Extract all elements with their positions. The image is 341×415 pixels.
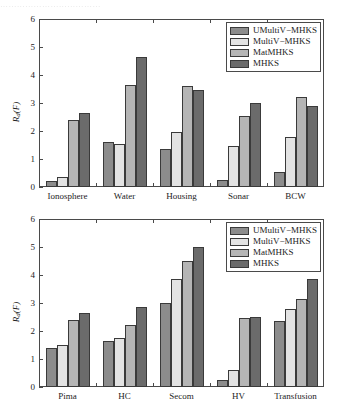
y-axis-tick-mark	[39, 331, 43, 332]
legend-1: UMultiV−MHKSMultiV−MHKSMatMHKSMHKS	[226, 22, 321, 72]
bar-group	[46, 19, 90, 187]
x-axis-tick-mark	[153, 19, 154, 23]
bar	[46, 348, 57, 387]
x-axis-tick-label: HV	[232, 392, 245, 401]
x-axis-tick-label: HC	[118, 392, 131, 401]
x-axis-tick-mark	[96, 219, 97, 223]
y-axis-tick-label: 4	[17, 71, 35, 80]
x-axis-tick-mark	[153, 219, 154, 223]
bar	[68, 120, 79, 187]
bar	[103, 341, 114, 387]
y-axis-tick-label: 2	[17, 327, 35, 336]
bar	[46, 181, 57, 187]
x-axis-tick-mark	[267, 183, 268, 187]
bar	[171, 279, 182, 387]
x-axis-tick-label: BCW	[285, 192, 306, 201]
y-axis-tick-mark	[39, 359, 43, 360]
legend-label: UMultiV−MHKS	[253, 226, 317, 235]
legend-item: MultiV−MHKS	[230, 36, 317, 47]
legend-swatch	[230, 260, 249, 268]
bar	[239, 318, 250, 387]
bar	[57, 345, 68, 387]
bar	[136, 57, 147, 187]
bar	[182, 86, 193, 187]
bar	[114, 144, 125, 187]
y-axis-tick-label: 0	[17, 383, 35, 392]
x-axis-tick-mark	[96, 19, 97, 23]
legend-swatch	[230, 227, 249, 235]
x-axis-tick-mark	[153, 183, 154, 187]
legend-swatch	[230, 249, 249, 257]
bar	[114, 338, 125, 387]
y-axis-tick-label: 5	[17, 243, 35, 252]
bar	[103, 142, 114, 187]
bar	[228, 146, 239, 187]
bar	[193, 90, 204, 187]
bar	[160, 303, 171, 387]
bar	[125, 85, 136, 187]
legend-item: MatMHKS	[230, 247, 317, 258]
bar	[274, 321, 285, 387]
y-axis-tick-label: 1	[17, 355, 35, 364]
bar	[136, 307, 147, 387]
y-axis-tick-mark	[39, 159, 43, 160]
bar	[217, 380, 228, 387]
x-axis-tick-mark	[210, 19, 211, 23]
bar	[228, 370, 239, 387]
bar	[68, 320, 79, 387]
bar	[79, 313, 90, 387]
y-axis-tick-mark	[39, 247, 43, 248]
bar	[274, 172, 285, 187]
bar	[160, 149, 171, 187]
legend-2: UMultiV−MHKSMultiV−MHKSMatMHKSMHKS	[226, 222, 321, 272]
y-axis-tick-label: 5	[17, 43, 35, 52]
x-axis-tick-label: Transfusion	[274, 392, 317, 401]
x-axis-tick-mark	[210, 183, 211, 187]
cropped-header-text: ………………………………	[0, 0, 341, 9]
y-axis-tick-mark	[39, 131, 43, 132]
bar-group	[103, 219, 147, 387]
chart-panel-1: Rd(F) 0123456IonosphereWaterHousingSonar…	[0, 14, 341, 210]
x-axis-tick-label: Secom	[169, 392, 194, 401]
y-axis-tick-mark	[39, 275, 43, 276]
legend-swatch	[230, 60, 249, 68]
legend-swatch	[230, 27, 249, 35]
y-axis-tick-label: 0	[17, 183, 35, 192]
x-axis-tick-mark	[96, 383, 97, 387]
x-axis-tick-label: Water	[114, 192, 135, 201]
legend-label: MHKS	[253, 259, 279, 268]
x-axis-tick-mark	[96, 183, 97, 187]
x-axis-tick-mark	[210, 219, 211, 223]
y-axis-tick-mark	[39, 187, 43, 188]
legend-swatch	[230, 49, 249, 57]
y-axis-tick-label: 1	[17, 155, 35, 164]
legend-label: UMultiV−MHKS	[253, 26, 317, 35]
bar	[193, 247, 204, 387]
bar-group	[160, 219, 204, 387]
plot-area-1: 0123456IonosphereWaterHousingSonarBCW UM…	[39, 19, 324, 187]
legend-item: UMultiV−MHKS	[230, 25, 317, 36]
x-axis-tick-label: Pima	[58, 392, 77, 401]
bar	[285, 137, 296, 187]
bar	[285, 309, 296, 387]
legend-label: MultiV−MHKS	[253, 37, 311, 46]
x-axis-tick-label: Housing	[166, 192, 197, 201]
bar-group	[160, 19, 204, 187]
bar	[171, 132, 182, 187]
legend-swatch	[230, 38, 249, 46]
legend-item: MatMHKS	[230, 47, 317, 58]
y-axis-tick-label: 3	[17, 99, 35, 108]
bar	[182, 261, 193, 387]
y-axis-tick-label: 3	[17, 299, 35, 308]
y-axis-tick-label: 6	[17, 215, 35, 224]
y-axis-tick-label: 2	[17, 127, 35, 136]
x-axis-tick-mark	[267, 383, 268, 387]
bar	[307, 279, 318, 387]
y-axis-tick-mark	[39, 19, 43, 20]
bar	[250, 317, 261, 387]
legend-label: MatMHKS	[253, 248, 294, 257]
x-axis-tick-mark	[153, 383, 154, 387]
y-axis-tick-mark	[39, 75, 43, 76]
x-axis-tick-mark	[210, 383, 211, 387]
legend-item: MHKS	[230, 258, 317, 269]
